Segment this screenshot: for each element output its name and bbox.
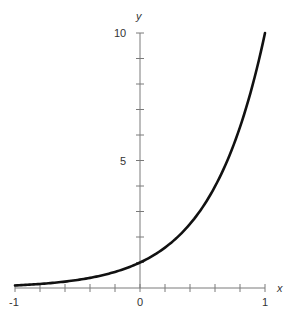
x-tick-label-zero: 0 — [137, 296, 143, 308]
y-tick-label-5: 5 — [120, 155, 126, 167]
chart: x y -1 0 1 5 10 — [0, 0, 290, 321]
y-tick-label-10: 10 — [114, 27, 126, 39]
x-tick-label-min: -1 — [9, 296, 19, 308]
y-axis-label: y — [135, 10, 143, 22]
x-axis-label: x — [276, 282, 283, 294]
x-tick-label-max: 1 — [262, 296, 268, 308]
